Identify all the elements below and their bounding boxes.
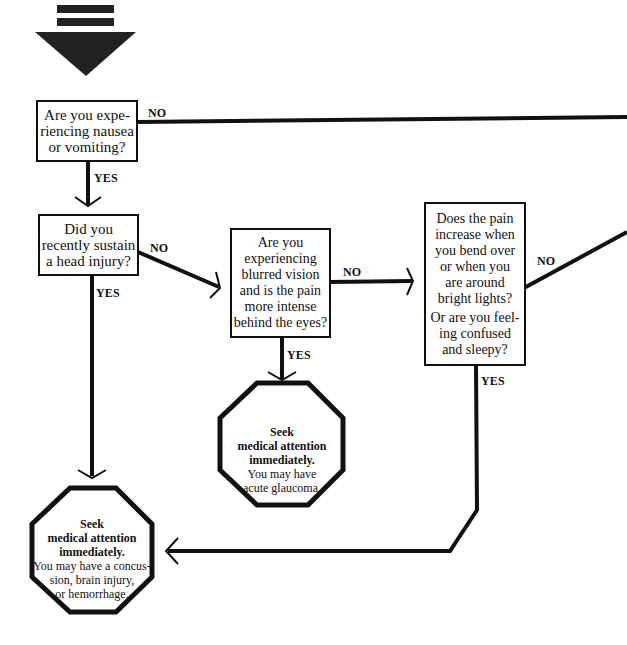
q1-no-connector (137, 117, 627, 122)
edge-label-q1-no: NO (148, 106, 166, 121)
stop-text-concussion: Seek medical attention immediately. You … (30, 517, 154, 601)
stop-text-glaucoma: Seek medical attention immediately. You … (224, 425, 340, 495)
edge-label-q2-no: NO (150, 241, 168, 256)
edge-label-q4-no: NO (537, 254, 555, 269)
question-nausea: Are you expe- riencing nausea or vomitin… (36, 100, 138, 162)
edge-label-q2-yes: YES (96, 286, 120, 301)
edge-label-q3-no: NO (343, 265, 361, 280)
edge-label-q4-yes: YES (481, 374, 505, 389)
down-arrow-start-icon (35, 5, 136, 76)
edge-label-q1-yes: YES (94, 171, 118, 186)
question-pain-bending: Does the pain increase when you bend ove… (424, 202, 526, 366)
edge-label-q3-yes: YES (287, 348, 311, 363)
question-head-injury: Did you recently sustain a head injury? (38, 214, 139, 276)
question-blurred-vision: Are you experiencing blurred vision and … (230, 228, 331, 338)
